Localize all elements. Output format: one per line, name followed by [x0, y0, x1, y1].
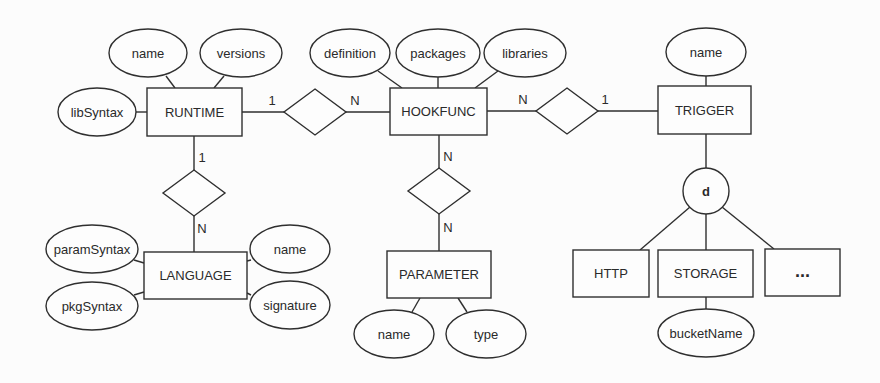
- attribute-parameter-type[interactable]: type: [446, 310, 526, 358]
- attribute-language-paramSyntax[interactable]: paramSyntax: [46, 225, 138, 273]
- specialization-circle: d: [683, 168, 729, 214]
- cardinality-label: 1: [601, 92, 608, 107]
- attribute-runtime-name[interactable]: name: [109, 29, 187, 77]
- attribute-link: [412, 298, 420, 312]
- attribute-label: versions: [217, 46, 266, 61]
- attribute-language-pkgSyntax[interactable]: pkgSyntax: [46, 282, 138, 330]
- entity-hookfunc[interactable]: HOOKFUNC: [390, 88, 487, 135]
- entity-parameter[interactable]: PARAMETER: [387, 251, 491, 298]
- attribute-language-signature[interactable]: signature: [250, 281, 330, 329]
- attribute-link: [134, 292, 144, 295]
- attribute-link: [134, 260, 144, 263]
- attribute-label: name: [274, 242, 307, 257]
- attribute-parameter-name[interactable]: name: [354, 310, 434, 358]
- cardinality-label: N: [518, 92, 527, 107]
- entity-more[interactable]: ...: [765, 249, 840, 296]
- cardinality-label: N: [443, 149, 452, 164]
- connector-line: [640, 207, 690, 250]
- attribute-label: paramSyntax: [54, 242, 131, 257]
- attribute-trigger-name[interactable]: name: [666, 28, 746, 76]
- disjoint-specialization[interactable]: d: [683, 168, 729, 214]
- entity-label: TRIGGER: [675, 103, 734, 118]
- attribute-ellipses: nameversionslibSyntaxdefinitionpackagesl…: [46, 28, 754, 358]
- cardinality-label: 1: [198, 150, 205, 165]
- relationship-diamond-runtime-hookfunc[interactable]: [284, 89, 346, 135]
- entity-storage[interactable]: STORAGE: [658, 250, 753, 297]
- attribute-label: bucketName: [670, 326, 743, 341]
- relationship-diamond-hookfunc-trigger[interactable]: [536, 88, 598, 134]
- attribute-label: packages: [410, 46, 466, 61]
- entity-label: HTTP: [594, 266, 628, 281]
- cardinality-label: N: [443, 220, 452, 235]
- relationship-diamond-hookfunc-parameter[interactable]: [408, 168, 470, 214]
- cardinality-label: N: [197, 221, 206, 236]
- attribute-hookfunc-libraries[interactable]: libraries: [484, 29, 566, 77]
- entity-trigger[interactable]: TRIGGER: [658, 86, 751, 134]
- attribute-storage-bucketName[interactable]: bucketName: [658, 309, 754, 357]
- specialization-label: d: [702, 184, 710, 199]
- attribute-hookfunc-packages[interactable]: packages: [396, 29, 480, 77]
- entity-label: HOOKFUNC: [401, 104, 475, 119]
- attribute-label: libraries: [502, 46, 548, 61]
- entity-runtime[interactable]: RUNTIME: [147, 88, 242, 136]
- connector-line: [722, 207, 774, 249]
- attribute-label: signature: [263, 298, 316, 313]
- attribute-link: [166, 76, 175, 88]
- entity-label: ...: [795, 261, 810, 281]
- attribute-runtime-versions[interactable]: versions: [200, 29, 282, 77]
- attribute-label: libSyntax: [71, 105, 124, 120]
- attribute-label: name: [378, 327, 411, 342]
- attribute-link: [458, 298, 467, 312]
- attribute-language-name[interactable]: name: [250, 225, 330, 273]
- entity-label: PARAMETER: [399, 267, 479, 282]
- attribute-label: definition: [324, 46, 376, 61]
- entity-label: LANGUAGE: [159, 268, 232, 283]
- attribute-label: name: [132, 46, 165, 61]
- relationship-diamond-runtime-language[interactable]: [163, 170, 225, 216]
- attribute-runtime-libSyntax[interactable]: libSyntax: [58, 88, 136, 136]
- cardinality-label: 1: [268, 93, 275, 108]
- attribute-link: [378, 71, 402, 88]
- attribute-hookfunc-definition[interactable]: definition: [310, 29, 390, 77]
- attribute-label: pkgSyntax: [62, 299, 123, 314]
- attribute-label: type: [474, 327, 499, 342]
- entity-http[interactable]: HTTP: [573, 250, 649, 297]
- entity-boxes: RUNTIMEHOOKFUNCTRIGGERLANGUAGEPARAMETERH…: [144, 86, 840, 299]
- entity-language[interactable]: LANGUAGE: [144, 252, 247, 299]
- cardinality-label: N: [350, 93, 359, 108]
- attribute-link: [214, 76, 224, 88]
- entity-label: STORAGE: [674, 266, 738, 281]
- attribute-link: [475, 71, 498, 88]
- entity-label: RUNTIME: [165, 105, 225, 120]
- attribute-label: name: [690, 45, 723, 60]
- er-diagram: RUNTIMEHOOKFUNCTRIGGERLANGUAGEPARAMETERH…: [0, 0, 880, 383]
